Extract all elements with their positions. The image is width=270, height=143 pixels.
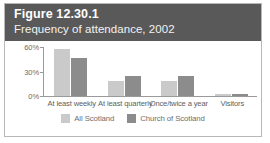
bar-group [54, 47, 87, 96]
legend-item[interactable]: All Scotland [61, 114, 114, 123]
bar-group [108, 47, 141, 96]
bar-group [215, 47, 248, 96]
figure-card: Figure 12.30.1 Frequency of attendance, … [4, 3, 262, 137]
legend-swatch-icon [61, 114, 70, 123]
x-axis-line [43, 96, 257, 97]
legend-label: Church of Scotland [140, 114, 205, 123]
y-axis-tick [40, 96, 44, 97]
y-axis-label: 60% [24, 43, 39, 52]
x-axis-category-label: Visitors [220, 99, 244, 108]
x-axis-category-label: At least weekly [48, 99, 96, 108]
bar [54, 49, 70, 96]
y-axis-label: 0% [28, 92, 39, 101]
bar [125, 76, 141, 96]
bar [215, 94, 231, 96]
bar [71, 58, 87, 96]
bar [232, 94, 248, 96]
bar [108, 81, 124, 96]
bar-group [161, 47, 194, 96]
legend-label: All Scotland [74, 114, 114, 123]
legend-swatch-icon [127, 114, 136, 123]
bar [161, 81, 177, 96]
legend-item[interactable]: Church of Scotland [127, 114, 205, 123]
figure-header: Figure 12.30.1 Frequency of attendance, … [5, 4, 261, 41]
chart-legend: All ScotlandChurch of Scotland [5, 114, 261, 123]
y-axis-label: 30% [24, 67, 39, 76]
x-axis-category-label: Once/twice a year [150, 99, 208, 108]
figure-subtitle: Frequency of attendance, 2002 [14, 22, 261, 37]
x-axis-category-labels: At least weeklyAt least quarterlyOnce/tw… [44, 99, 258, 111]
chart-plot-region: 0%30%60% At least weeklyAt least quarter… [5, 41, 261, 137]
chart-axes: 0%30%60% [43, 47, 257, 96]
bars-layer [44, 47, 257, 96]
figure-number: Figure 12.30.1 [14, 7, 261, 22]
bar [178, 76, 194, 96]
x-axis-category-label: At least quarterly [98, 99, 152, 108]
